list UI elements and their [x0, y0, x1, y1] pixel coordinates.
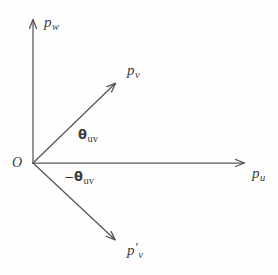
vector-label-pv-prime: p′v — [127, 240, 143, 261]
vector-label-pv-subscript: v — [135, 69, 140, 80]
angle-label-theta-uv: θuv — [78, 126, 98, 145]
theta-symbol-icon-negative: θ — [74, 169, 83, 184]
axis-label-pu-subscript: u — [260, 172, 266, 183]
axis-label-pw-subscript: w — [52, 21, 60, 32]
axis-label-pw: pw — [44, 14, 59, 33]
vector-label-pv-prime-subscript: v — [138, 249, 143, 260]
axis-label-pu: pu — [252, 165, 265, 184]
angle-label-negative-theta-uv: −θuv — [64, 168, 94, 187]
minus-sign-icon: − — [64, 170, 74, 184]
diagram-canvas — [0, 0, 278, 275]
angle-label-theta-uv-subscript: uv — [87, 133, 98, 144]
origin-label: O — [12, 156, 22, 170]
vector-label-pv: pv — [127, 62, 140, 81]
vector-label-pv-base: p — [127, 62, 135, 78]
axis-label-pw-base: p — [44, 14, 52, 30]
theta-symbol-icon: θ — [78, 127, 87, 142]
vector-pv-line — [33, 84, 115, 164]
axis-label-pu-base: p — [252, 165, 260, 181]
vector-label-pv-prime-base: p — [127, 242, 135, 258]
vector-angle-diagram: pw pv pu p′v θuv −θuv O — [0, 0, 278, 275]
angle-label-negative-theta-uv-subscript: uv — [83, 175, 94, 186]
